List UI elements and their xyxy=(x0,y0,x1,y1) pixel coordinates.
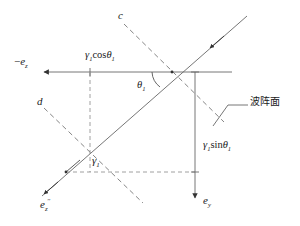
gamma-tick xyxy=(66,160,80,172)
origin-point xyxy=(171,71,174,74)
label-gamma-sin-theta: γ1sinθ1 xyxy=(203,140,231,153)
label-ray-d: d xyxy=(37,96,43,107)
figure-canvas: −ez c d γ1cosθ1 γ1sinθ1 γ1 θ1 ez′′ ey 波阵… xyxy=(0,0,300,226)
angle-arc-theta xyxy=(152,72,160,87)
label-wavefront-cjk: 波阵面 xyxy=(250,97,280,107)
label-gamma-one: γ1 xyxy=(92,155,100,169)
label-minus-e-z: −ez xyxy=(14,56,28,70)
dashed-wavefront-line-c xyxy=(124,24,224,122)
incident-ray-line xyxy=(42,16,247,196)
label-theta-one: θ1 xyxy=(137,80,145,93)
label-gamma-cos-theta: γ1cosθ1 xyxy=(85,50,115,63)
label-e-y: ey xyxy=(203,195,211,209)
wavefront-leader-line xyxy=(213,105,248,126)
label-e-z-double-prime: ez′′ xyxy=(40,198,51,213)
label-ray-c: c xyxy=(118,10,123,21)
ray-diagram-svg xyxy=(0,0,300,226)
